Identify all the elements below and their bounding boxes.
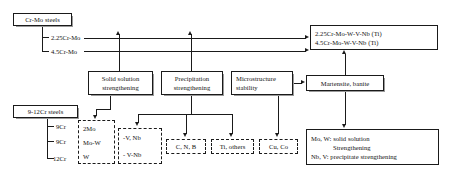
element-c-n-b: C, N, B [176, 142, 197, 151]
leaf-45cr-mo: 4.5Cr-Mo [51, 48, 77, 56]
summary-line3: Nb, V: precipitate strengthening [307, 152, 397, 161]
arrowhead-elements-ti [229, 133, 233, 137]
element-ti-others: Ti, others [220, 142, 246, 151]
arrowhead-elements-cuco [275, 133, 279, 137]
arrowhead-target-2 [305, 48, 309, 52]
riser-precipitation [191, 34, 192, 71]
element-mo-w: Mo-W [79, 138, 101, 147]
leaf-12cr: 12Cr [53, 155, 66, 163]
riser-martensite-to-target [345, 54, 346, 75]
tree-branch-cr-mo-2 [42, 51, 49, 52]
arrowhead-elements-cnb [183, 133, 187, 137]
microstructure-line1: Microstructure [232, 74, 276, 83]
node-elements-ti: Ti, others [211, 139, 254, 154]
node-elements-cuco: Cu, Co [259, 139, 298, 154]
martensite-label: Martensite, banite [321, 79, 370, 88]
flow-line-to-target-2 [84, 51, 306, 52]
drop-to-ti [232, 114, 233, 134]
arrowhead-martensite [301, 80, 305, 84]
tree-stem-cr-mo [42, 26, 43, 51]
drop-precipitation [191, 95, 192, 114]
flowchart-diagram: Cr-Mo steels 2.25Cr-Mo 4.5Cr-Mo 9-12Cr s… [0, 0, 449, 179]
leaf-9cr-b: 9Cr [56, 138, 66, 146]
arrowhead-martensite-to-target [342, 50, 346, 54]
flow-line-to-target-1 [84, 38, 306, 39]
node-elements-cnb: C, N, B [166, 139, 206, 154]
drop-solid-solution [110, 95, 111, 109]
arrowhead-summary [342, 124, 346, 128]
precipitation-line1: Precipitation [175, 74, 209, 83]
summary-line1: Mo, W: solid solution [307, 134, 370, 143]
element-cu-co: Cu, Co [269, 142, 288, 151]
node-microstructure-stability: Microstructure stability [231, 71, 293, 95]
arrowhead-elements-vnb [135, 122, 139, 126]
node-solid-solution-strengthening: Solid solution strengthening [88, 71, 153, 95]
arrowhead-riser-precipitation [188, 31, 192, 35]
node-9-12cr-steels-label: 9-12Cr steels [28, 107, 64, 116]
element-v-nb: -V, Nb [119, 133, 141, 142]
summary-line2: Strengthening [307, 143, 371, 152]
precipitation-line2: strengthening [174, 83, 211, 92]
node-elements-vnb-group: -V, Nb - V-Nb [118, 128, 162, 164]
tree-branch-9cr-a [47, 126, 54, 127]
tree-branch-cr-mo-1 [42, 37, 49, 38]
riser-solid-solution [119, 34, 120, 71]
drop-martensite-to-summary [345, 91, 346, 125]
arrowhead-target-1 [305, 35, 309, 39]
solid-solution-line1: Solid solution [102, 74, 140, 83]
tree-stem-9-12cr [47, 118, 48, 158]
drop-to-cnb [186, 114, 187, 134]
element-w: W [79, 152, 89, 161]
leaf-9cr-a: 9Cr [56, 123, 66, 131]
microstructure-line2: stability [232, 83, 258, 92]
elbow-solid-solution [96, 109, 111, 110]
node-cr-mo-steels: Cr-Mo steels [13, 13, 72, 26]
node-9-12cr-steels: 9-12Cr steels [13, 105, 78, 118]
node-martensite-banite: Martensite, banite [306, 75, 384, 91]
arrowhead-elements-mo [93, 115, 97, 119]
drop-microstructure-to-cuco [278, 95, 279, 134]
node-elements-mo-group: 2Mo Mo-W W [78, 120, 115, 164]
leaf-225cr-mo: 2.25Cr-Mo [51, 34, 80, 42]
node-target-alloys: 2.25Cr-Mo-W-V-Nb (Ti) 4.5Cr-Mo-W-V-Nb (T… [310, 25, 438, 50]
node-cr-mo-steels-label: Cr-Mo steels [25, 15, 60, 24]
solid-solution-line2: strengthening [102, 83, 139, 92]
element-v-nb-2: - V-Nb [119, 150, 141, 159]
element-2mo: 2Mo [79, 124, 96, 133]
target-alloy-1-label: 2.25Cr-Mo-W-V-Nb (Ti) [311, 29, 382, 38]
node-precipitation-strengthening: Precipitation strengthening [161, 71, 223, 95]
arrowhead-riser-solid-solution [116, 31, 120, 35]
tree-branch-9cr-b [47, 141, 54, 142]
fan-bar-precipitation [138, 114, 232, 115]
target-alloy-2-label: 4.5Cr-Mo-W-V-Nb (Ti) [311, 38, 378, 47]
node-summary: Mo, W: solid solution Strengthening Nb, … [306, 129, 439, 165]
